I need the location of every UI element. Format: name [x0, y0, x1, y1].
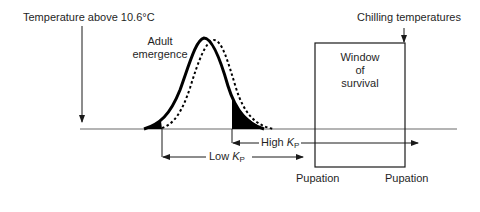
high-kp-label: High KP: [259, 136, 301, 152]
adult-emergence-label: Adult emergence: [130, 35, 190, 61]
window-line3: survival: [320, 77, 400, 90]
adult-emergence-line1: Adult: [130, 35, 190, 48]
window-of-survival-label: Window of survival: [320, 51, 400, 90]
high-kp-sub: P: [294, 141, 299, 150]
chilling-temperatures-label: Chilling temperatures: [357, 11, 461, 24]
adult-emergence-line2: emergence: [130, 48, 190, 61]
high-kp-prefix: High: [261, 136, 287, 148]
window-line1: Window: [320, 51, 400, 64]
pupation-left-label: Pupation: [296, 172, 339, 185]
low-kp-k: K: [232, 150, 239, 162]
high-kp-k: K: [287, 136, 294, 148]
window-line2: of: [320, 64, 400, 77]
low-kp-prefix: Low: [209, 150, 232, 162]
temperature-label: Temperature above 10.6°C: [23, 11, 155, 24]
pupation-right-label: Pupation: [385, 172, 428, 185]
low-kp-sub: P: [240, 155, 245, 164]
late-tail-shaded-area: [232, 99, 264, 129]
low-kp-label: Low KP: [207, 150, 247, 166]
